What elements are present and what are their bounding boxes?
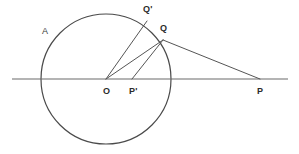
label-point-q-prime: Q' <box>143 5 153 14</box>
label-circle-a: A <box>42 27 48 36</box>
segment-q-to-p <box>163 40 260 79</box>
label-point-q: Q <box>160 24 167 33</box>
segment-p-prime-to-q <box>132 40 163 79</box>
segment-o-to-q-prime <box>106 21 147 79</box>
label-point-p: P <box>257 87 263 96</box>
geometry-diagram: A O P' P Q Q' <box>0 0 299 154</box>
diagram-canvas <box>0 0 299 154</box>
label-point-o: O <box>103 87 110 96</box>
segment-o-to-q <box>106 40 163 79</box>
label-point-p-prime: P' <box>129 87 138 96</box>
